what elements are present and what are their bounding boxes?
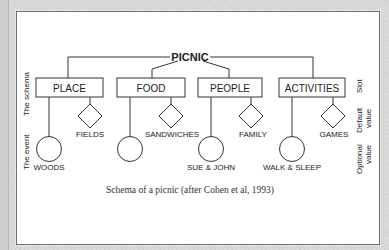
slot-label-activities: ACTIVITIES (285, 83, 340, 94)
optional-value-circle-food (118, 137, 143, 162)
right-label-slot: Slot (355, 78, 364, 93)
default-value-diamond-food (159, 104, 183, 128)
optional-value-people: SUE & JOHN (187, 163, 235, 172)
figure-caption: Schema of a picnic (after Cohen et al, 1… (106, 185, 274, 196)
right-label-default-2: value (364, 108, 373, 128)
root-node-label: PICNIC (171, 51, 208, 63)
default-value-place: FIELDS (76, 130, 104, 139)
right-label-default-1: Default (355, 107, 364, 133)
default-value-diamond-people (239, 104, 263, 128)
optional-value-activities: WALK & SLEEP (263, 163, 321, 172)
optional-value-place: WOODS (33, 163, 64, 172)
picnic-schema-diagram: PICNIC PLACE FOOD PEOPLE ACTIVITIES FIEL… (0, 0, 389, 250)
default-value-diamond-place (78, 104, 102, 128)
slot-label-place: PLACE (53, 83, 86, 94)
optional-value-circle-place (37, 137, 62, 162)
connector-food (152, 61, 178, 78)
right-label-optional-2: value (364, 144, 373, 164)
default-value-activities: GAMES (320, 130, 349, 139)
left-label-event: The event (22, 134, 31, 170)
optional-value-circle-activities (280, 137, 305, 162)
slot-label-people: PEOPLE (210, 83, 250, 94)
connector-people (203, 61, 229, 78)
default-value-diamond-activities (321, 104, 345, 128)
slot-label-food: FOOD (137, 83, 166, 94)
left-label-schema: The schema (22, 71, 31, 116)
right-label-optional-1: Optional (355, 144, 364, 174)
default-value-people: FAMILY (239, 130, 268, 139)
default-value-food: SANDWICHES (145, 130, 199, 139)
optional-value-circle-people (199, 137, 224, 162)
